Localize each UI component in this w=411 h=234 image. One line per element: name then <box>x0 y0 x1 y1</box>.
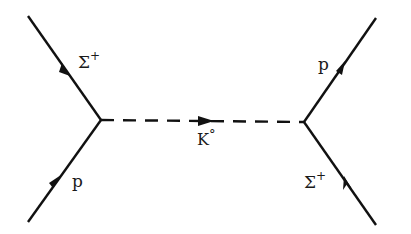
label-proton-right: p <box>318 54 329 74</box>
label-sigma-left: Σ+ <box>78 49 100 72</box>
label-proton-left: p <box>72 171 83 191</box>
proton-left-line <box>28 120 101 222</box>
label-kaon: K° <box>197 127 215 149</box>
feynman-diagram: Σ+ p K° p Σ+ <box>0 0 411 234</box>
arrow-icon <box>198 116 214 126</box>
arrow-icon <box>59 63 70 76</box>
proton-right-line <box>304 18 376 122</box>
kaon-line <box>101 116 304 126</box>
label-sigma-right: Σ+ <box>304 169 326 192</box>
sigma-left-line <box>28 16 101 120</box>
